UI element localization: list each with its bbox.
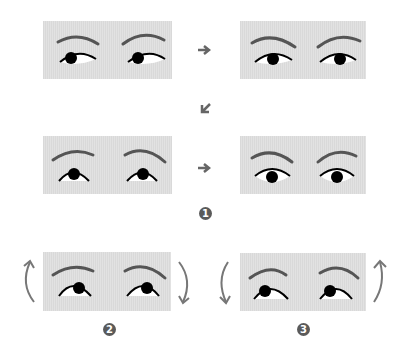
step-badge-1: 1 xyxy=(199,207,212,220)
eyes-looking-up-right-icon xyxy=(43,252,171,311)
rotate-clockwise-arrow-icon xyxy=(216,260,236,306)
down-left-arrow-icon xyxy=(200,102,212,114)
eye-panel-3 xyxy=(43,136,172,194)
eye-panel-6 xyxy=(240,253,366,311)
eyes-looking-left-icon xyxy=(43,21,172,79)
eye-panel-5 xyxy=(43,252,171,311)
right-arrow-icon xyxy=(198,163,212,173)
eyes-looking-down-icon xyxy=(240,21,366,79)
eye-panel-4 xyxy=(240,136,366,194)
step-badge-2: 2 xyxy=(103,323,116,336)
rotate-counterclockwise-arrow-icon xyxy=(370,258,390,304)
step-badge-3: 3 xyxy=(297,323,310,336)
eye-panel-2 xyxy=(240,21,366,79)
rotate-counterclockwise-arrow-icon xyxy=(18,258,38,304)
rotate-clockwise-arrow-icon xyxy=(175,260,195,306)
eyes-looking-up-left-icon xyxy=(240,253,366,311)
eye-panel-1 xyxy=(43,21,172,79)
right-arrow-icon xyxy=(198,45,212,55)
eyes-looking-center-icon xyxy=(240,136,366,194)
eyes-looking-up-icon xyxy=(43,136,172,194)
